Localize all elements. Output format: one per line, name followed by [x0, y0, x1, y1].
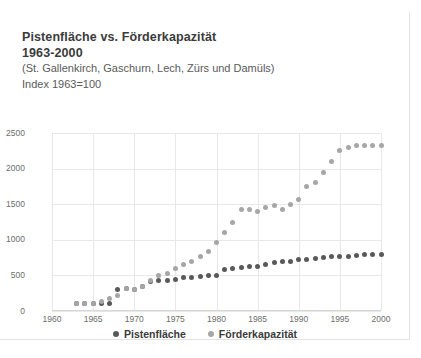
data-point — [370, 252, 375, 257]
data-point — [263, 205, 268, 210]
data-point — [304, 184, 309, 189]
x-tick-label-1980: 1980 — [197, 315, 237, 324]
data-point — [214, 273, 219, 278]
data-point — [115, 293, 120, 298]
data-point — [280, 259, 285, 264]
gridline-x-1990 — [299, 133, 300, 311]
y-tick-label-2000: 2000 — [0, 164, 25, 173]
gridline-x-1960 — [52, 133, 53, 311]
data-point — [115, 287, 120, 292]
gridline-x-1995 — [340, 133, 341, 311]
x-tick-label-1960: 1960 — [32, 315, 72, 324]
data-point — [189, 259, 194, 264]
data-point — [313, 256, 318, 261]
data-point — [313, 180, 318, 185]
data-point — [280, 207, 285, 212]
data-point — [288, 259, 293, 264]
data-point — [107, 296, 112, 301]
chart-title-line1: Pistenfläche vs. Förderkapazität — [22, 30, 402, 46]
y-tick-label-1500: 1500 — [0, 200, 25, 209]
y-tick-label-0: 0 — [0, 307, 25, 316]
data-point — [181, 262, 186, 267]
data-point — [222, 230, 227, 235]
data-point — [82, 301, 87, 306]
data-point — [346, 145, 351, 150]
data-point — [198, 254, 203, 259]
data-point — [354, 253, 359, 258]
gridline-y-0 — [52, 311, 381, 312]
data-point — [74, 301, 79, 306]
chart-subtitle-regions: (St. Gallenkirch, Gaschurn, Lech, Zürs u… — [22, 61, 402, 77]
data-point — [198, 274, 203, 279]
data-point — [132, 287, 137, 292]
data-point — [304, 257, 309, 262]
gridline-x-1985 — [258, 133, 259, 311]
chart-title-line2: 1963-2000 — [22, 46, 402, 62]
data-point — [354, 143, 359, 148]
plot-area — [52, 133, 381, 311]
y-tick-label-1000: 1000 — [0, 235, 25, 244]
data-point — [124, 286, 129, 291]
data-point — [91, 301, 96, 306]
x-tick-label-1970: 1970 — [114, 315, 154, 324]
data-point — [272, 260, 277, 265]
data-point — [247, 264, 252, 269]
data-point — [239, 265, 244, 270]
page-root: Pistenfläche vs. Förderkapazität 1963-20… — [0, 0, 421, 358]
legend-marker-dark — [113, 331, 119, 337]
data-point — [362, 252, 367, 257]
data-point — [107, 301, 112, 306]
data-point — [337, 148, 342, 153]
data-point — [239, 207, 244, 212]
gridline-x-1980 — [217, 133, 218, 311]
data-point — [230, 266, 235, 271]
data-point — [156, 273, 161, 278]
gridline-x-2000 — [381, 133, 382, 311]
data-point — [173, 277, 178, 282]
scatter-chart: 05001000150020002500 1960196519701975198… — [0, 116, 410, 346]
data-point — [337, 254, 342, 259]
data-point — [156, 278, 161, 283]
data-point — [255, 264, 260, 269]
data-point — [165, 278, 170, 283]
data-point — [214, 240, 219, 245]
data-point — [140, 284, 145, 289]
x-axis-line — [52, 310, 381, 311]
data-point — [288, 202, 293, 207]
legend-item-pistenflaeche[interactable]: Pistenfläche — [113, 328, 186, 340]
data-point — [329, 254, 334, 259]
data-point — [379, 252, 384, 257]
x-tick-label-2000: 2000 — [361, 315, 401, 324]
chart-card: Pistenfläche vs. Förderkapazität 1963-20… — [0, 12, 410, 340]
data-point — [272, 203, 277, 208]
title-block: Pistenfläche vs. Förderkapazität 1963-20… — [22, 30, 402, 92]
data-point — [247, 207, 252, 212]
legend-item-foerderkapazitaet[interactable]: Förderkapazität — [208, 328, 297, 340]
data-point — [296, 257, 301, 262]
legend-label-foerderkapazitaet: Förderkapazität — [219, 328, 297, 340]
chart-legend: Pistenfläche Förderkapazität — [0, 328, 410, 340]
x-tick-label-1995: 1995 — [320, 315, 360, 324]
x-tick-label-1985: 1985 — [238, 315, 278, 324]
gridline-x-1965 — [93, 133, 94, 311]
gridline-x-1970 — [134, 133, 135, 311]
data-point — [189, 275, 194, 280]
data-point — [346, 254, 351, 259]
data-point — [206, 249, 211, 254]
data-point — [329, 159, 334, 164]
x-tick-label-1990: 1990 — [279, 315, 319, 324]
data-point — [206, 273, 211, 278]
chart-subtitle-index: Index 1963=100 — [22, 77, 402, 93]
data-point — [181, 275, 186, 280]
y-tick-label-2500: 2500 — [0, 129, 25, 138]
x-tick-label-1965: 1965 — [73, 315, 113, 324]
data-point — [230, 220, 235, 225]
data-point — [296, 197, 301, 202]
data-point — [255, 209, 260, 214]
gridline-x-1975 — [175, 133, 176, 311]
data-point — [362, 143, 367, 148]
data-point — [165, 271, 170, 276]
data-point — [173, 266, 178, 271]
legend-marker-light — [208, 331, 214, 337]
legend-label-pistenflaeche: Pistenfläche — [124, 328, 186, 340]
